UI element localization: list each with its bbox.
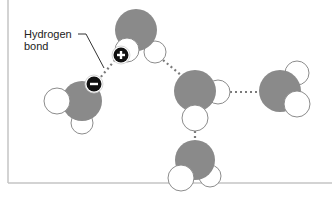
water-molecule-center (174, 70, 230, 131)
hydrogen-atom (168, 165, 194, 191)
hydrogen-bond-label: Hydrogen bond (24, 28, 72, 52)
water-molecule-right (259, 61, 310, 117)
label-line-2: bond (24, 40, 72, 52)
negative-charge-icon (85, 75, 103, 93)
leader-line (78, 34, 104, 68)
hydrogen-bond-top-center (163, 60, 182, 76)
hydrogen-atom (182, 105, 208, 131)
positive-charge-icon (112, 46, 130, 64)
hydrogen-bond-top-left (100, 60, 115, 78)
label-leader-line (78, 34, 104, 68)
label-line-1: Hydrogen (24, 28, 72, 40)
water-molecules (44, 9, 310, 191)
charge-badges (85, 46, 130, 93)
hydrogen-atom (44, 88, 70, 114)
hydrogen-atom (284, 91, 310, 117)
